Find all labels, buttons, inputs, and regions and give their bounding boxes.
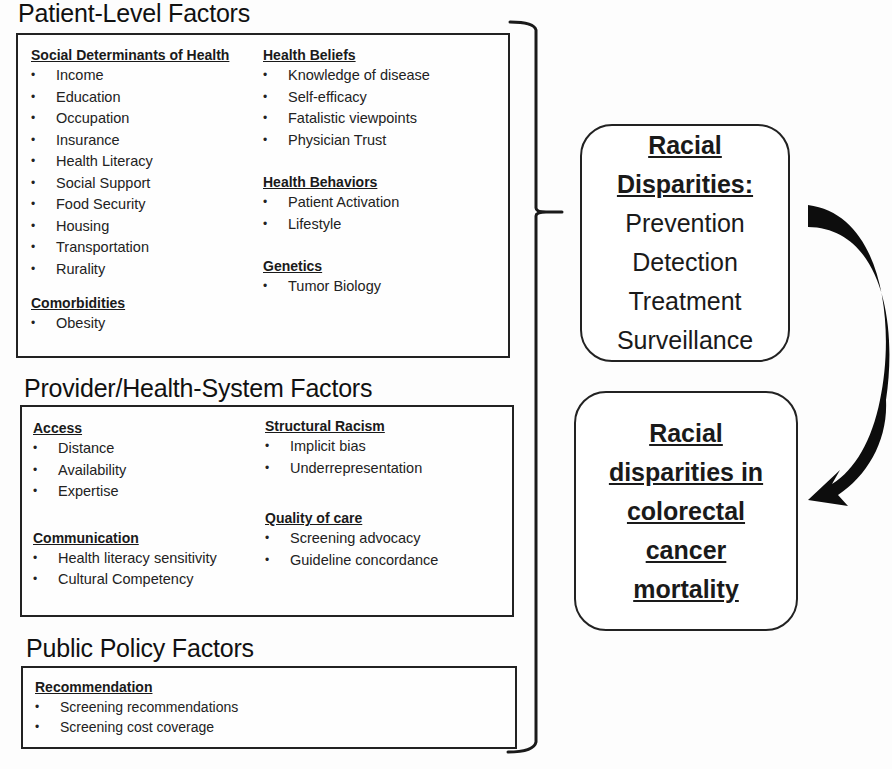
right-brace-icon bbox=[508, 22, 562, 752]
crc-mortality-box: Racial disparities in colorectal cancer … bbox=[574, 391, 798, 631]
disparity-prevention: Prevention bbox=[625, 204, 745, 243]
mortality-line3: colorectal bbox=[627, 492, 745, 531]
disparities-title-line1: Racial bbox=[648, 126, 722, 165]
disparity-detection: Detection bbox=[632, 243, 738, 282]
connector-graphics bbox=[0, 0, 892, 769]
racial-disparities-box: Racial Disparities: Prevention Detection… bbox=[580, 124, 790, 362]
disparity-surveillance: Surveillance bbox=[617, 321, 753, 360]
disparities-title-line2: Disparities: bbox=[617, 165, 753, 204]
mortality-line5: mortality bbox=[633, 570, 739, 609]
mortality-line4: cancer bbox=[646, 531, 727, 570]
mortality-line1: Racial bbox=[649, 414, 723, 453]
disparity-treatment: Treatment bbox=[628, 282, 741, 321]
curved-arrow-icon bbox=[808, 205, 889, 506]
mortality-line2: disparities in bbox=[609, 453, 763, 492]
